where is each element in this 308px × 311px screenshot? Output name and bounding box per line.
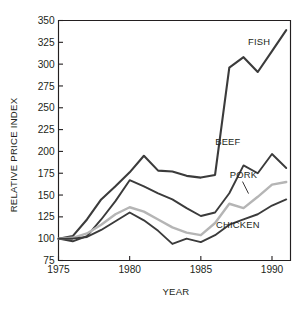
y-tick-label: 325 [38,37,55,48]
x-tick-label: 1990 [261,264,284,275]
y-tick-label: 175 [38,168,55,179]
series-line-fish [59,30,287,239]
data-series-lines [59,30,287,244]
y-tick-label: 250 [38,102,55,113]
y-axis-ticks: 75100125150175200225250275300325350 [38,15,63,266]
x-axis-title: YEAR [162,286,189,297]
series-label-fish: FISH [248,36,270,47]
x-tick-label: 1980 [119,264,142,275]
y-axis-title: RELATIVE PRICE INDEX [8,97,19,212]
y-tick-label: 225 [38,124,55,135]
x-tick-label: 1975 [47,264,70,275]
y-tick-label: 200 [38,146,55,157]
y-tick-label: 300 [38,59,55,70]
price-index-chart-figure: 75100125150175200225250275300325350 1975… [0,0,308,311]
y-tick-label: 275 [38,81,55,92]
line-chart-svg: 75100125150175200225250275300325350 1975… [0,0,308,311]
series-label-beef: BEEF [215,136,240,147]
y-tick-label: 100 [38,233,55,244]
y-tick-label: 150 [38,190,55,201]
x-axis-ticks: 1975198019851990 [47,256,283,275]
y-tick-label: 125 [38,211,55,222]
series-label-chicken: CHICKEN [216,219,260,230]
series-label-pork: PORK [230,169,258,180]
x-tick-label: 1985 [190,264,213,275]
y-tick-label: 350 [38,15,55,26]
